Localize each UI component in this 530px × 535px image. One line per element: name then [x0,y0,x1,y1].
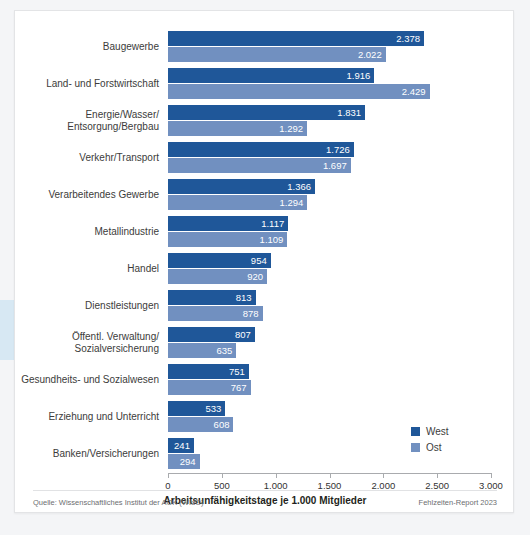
bar-ost: 1.294 [168,195,307,210]
category-label: Banken/Versicherungen [0,448,159,460]
category-label: Handel [0,263,159,275]
legend-swatch-ost-icon [411,443,420,452]
bar-value-label: 1.831 [337,107,365,118]
bar-value-label: 608 [214,419,234,430]
bar-value-label: 2.022 [358,49,386,60]
x-axis-tick [437,473,438,478]
bar-value-label: 1.366 [287,181,315,192]
legend-label-ost: Ost [426,442,442,453]
bar-group: Verkehr/Transport1.7261.697 [168,142,491,179]
legend-item-west: West [411,426,449,437]
bar-ost: 294 [168,454,200,469]
category-label: Baugewerbe [0,41,159,53]
legend-item-ost: Ost [411,442,449,453]
footer-divider [33,490,497,491]
page-background: Baugewerbe2.3782.022Land- und Forstwirts… [0,0,530,535]
category-label: Öffentl. Verwaltung/ Sozialversicherung [0,331,159,355]
chart-plot-area: Baugewerbe2.3782.022Land- und Forstwirts… [15,11,515,514]
category-label: Energie/Wasser/ Entsorgung/Bergbau [0,109,159,133]
bar-value-label: 1.697 [323,160,351,171]
x-axis-tick [330,473,331,478]
bar-west: 807 [168,327,255,342]
bar-west: 2.378 [168,31,424,46]
bar-west: 241 [168,438,194,453]
bar-value-label: 2.378 [396,33,424,44]
source-note: Quelle: Wissenschaftliches Institut der … [33,498,203,507]
bar-group: Dienstleistungen813878 [168,290,491,327]
bar-group: Öffentl. Verwaltung/ Sozialversicherung8… [168,327,491,364]
bar-ost: 920 [168,269,267,284]
bar-value-label: 1.117 [261,218,288,229]
bar-west: 954 [168,253,271,268]
bar-value-label: 1.916 [347,70,375,81]
bar-west: 751 [168,364,249,379]
bar-west: 1.366 [168,179,315,194]
bar-value-label: 813 [236,292,256,303]
bar-value-label: 920 [247,271,267,282]
category-label: Gesundheits- und Sozialwesen [0,374,159,386]
bar-group: Gesundheits- und Sozialwesen751767 [168,364,491,401]
bar-ost: 608 [168,417,233,432]
bar-group: Metallindustrie1.1171.109 [168,216,491,253]
x-axis-tick [383,473,384,478]
bar-value-label: 878 [243,308,263,319]
bar-ost: 2.429 [168,84,430,99]
bar-value-label: 1.292 [279,123,307,134]
chart-card: Baugewerbe2.3782.022Land- und Forstwirts… [14,10,514,513]
category-label: Erziehung und Unterricht [0,411,159,423]
bar-ost: 1.292 [168,121,307,136]
category-label: Dienstleistungen [0,300,159,312]
bar-ost: 2.022 [168,47,386,62]
bar-value-label: 751 [229,366,249,377]
bar-value-label: 1.726 [326,144,354,155]
bar-west: 1.726 [168,142,354,157]
chart-legend: West Ost [411,426,449,458]
bar-value-label: 241 [174,440,194,451]
bar-value-label: 767 [231,382,251,393]
bar-group: Land- und Forstwirtschaft1.9162.429 [168,68,491,105]
legend-swatch-west-icon [411,427,420,436]
bar-group: Baugewerbe2.3782.022 [168,31,491,68]
bar-value-label: 294 [180,456,200,467]
category-label: Verarbeitendes Gewerbe [0,189,159,201]
bar-value-label: 533 [206,403,226,414]
bar-ost: 635 [168,343,236,358]
bar-group: Handel954920 [168,253,491,290]
bar-west: 533 [168,401,225,416]
x-axis-tick [222,473,223,478]
bar-group: Energie/Wasser/ Entsorgung/Bergbau1.8311… [168,105,491,142]
bar-value-label: 1.294 [280,197,308,208]
bar-ost: 767 [168,380,251,395]
x-axis-tick [276,473,277,478]
bar-groups-container: Baugewerbe2.3782.022Land- und Forstwirts… [168,29,491,473]
bar-value-label: 954 [251,255,271,266]
bar-ost: 878 [168,306,263,321]
bar-west: 1.117 [168,216,288,231]
category-label: Verkehr/Transport [0,152,159,164]
bar-value-label: 2.429 [402,86,430,97]
bar-west: 1.916 [168,68,374,83]
category-label: Metallindustrie [0,226,159,238]
category-label: Land- und Forstwirtschaft [0,78,159,90]
bar-group: Verarbeitendes Gewerbe1.3661.294 [168,179,491,216]
bar-ost: 1.697 [168,158,351,173]
x-axis-tick [491,473,492,478]
x-axis-tick [168,473,169,478]
legend-label-west: West [426,426,449,437]
bar-value-label: 635 [217,345,237,356]
bar-value-label: 807 [235,329,255,340]
bar-ost: 1.109 [168,232,287,247]
bar-west: 813 [168,290,256,305]
bar-value-label: 1.109 [260,234,288,245]
bar-west: 1.831 [168,105,365,120]
report-note: Fehlzeiten-Report 2023 [419,498,497,507]
